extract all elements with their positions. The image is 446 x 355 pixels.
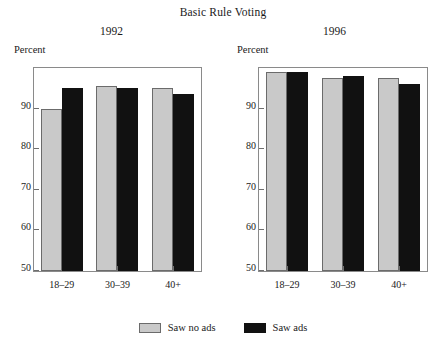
bar [399,84,420,271]
legend-swatch [139,323,161,333]
y-tick-label-50: 50 [21,263,31,273]
x-tick-mark [287,266,288,271]
x-tick-label: 18–29 [275,279,300,290]
legend-label: Saw no ads [168,322,216,333]
x-tick-label: 40+ [391,279,407,290]
x-tick-label: 18–29 [49,279,74,290]
plot-area-1992: 5060708090 18–2930–3940+ [33,67,202,272]
legend-label: Saw ads [273,322,308,333]
bar-group: 18–29 [263,68,312,271]
bar-groups-1992: 18–2930–3940+ [34,68,201,271]
panel-title-1992: 1992 [0,25,223,37]
bar-group: 30–39 [93,68,141,271]
y-tick-label-60: 60 [246,222,256,232]
x-tick-mark [343,266,344,271]
bar [287,72,308,271]
y-tick-label-70: 70 [21,182,31,192]
bar [343,76,364,271]
x-tick-label: 30–39 [105,279,130,290]
y-tick-label-90: 90 [246,101,256,111]
bar [62,88,83,271]
y-tick-label-80: 80 [21,141,31,151]
x-tick-mark [117,266,118,271]
legend-swatch [244,323,266,333]
plot-area-1996: 5060708090 18–2930–3940+ [258,67,428,272]
bar-group: 40+ [149,68,197,271]
bar [378,78,399,271]
bar [152,88,173,271]
x-tick-mark [173,266,174,271]
x-tick-mark [399,266,400,271]
bar-group: 40+ [375,68,424,271]
bar [117,88,138,271]
x-tick-label: 40+ [165,279,181,290]
x-tick-label: 30–39 [331,279,356,290]
bar-groups-1996: 18–2930–3940+ [259,68,427,271]
legend-item: Saw no ads [139,322,216,333]
y-tick-label-60: 60 [21,222,31,232]
bar [173,94,194,271]
y-tick-label-70: 70 [246,182,256,192]
panel-title-1996: 1996 [223,25,446,37]
y-tick-label-50: 50 [246,263,256,273]
y-tick-label-90: 90 [21,101,31,111]
bar [266,72,287,271]
y-tick-label-80: 80 [246,141,256,151]
y-axis-label-1992: Percent [14,44,46,55]
bar-group: 18–29 [38,68,86,271]
chart-legend: Saw no adsSaw ads [0,322,446,333]
bar [96,86,117,271]
panel-1996: 1996 Percent 5060708090 18–2930–3940+ [223,0,446,300]
bar [322,78,343,271]
panel-1992: 1992 Percent 5060708090 18–2930–3940+ [0,0,223,300]
bar-group: 30–39 [319,68,368,271]
legend-item: Saw ads [244,322,308,333]
bar [41,109,62,271]
chart-figure: Basic Rule Voting 1992 Percent 506070809… [0,0,446,355]
y-axis-label-1996: Percent [237,44,269,55]
x-tick-mark [61,266,62,271]
